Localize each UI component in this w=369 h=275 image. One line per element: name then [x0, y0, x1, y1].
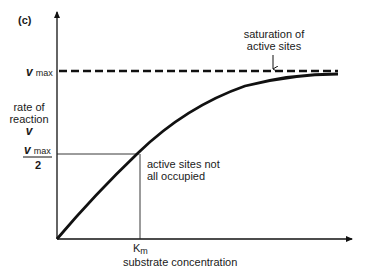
saturation-annotation: saturation of active sites [236, 28, 312, 52]
not-occupied-annotation: active sites not all occupied [147, 158, 220, 182]
y-axis-label-symbol: v [6, 125, 52, 137]
km-subscript: m [140, 246, 148, 256]
half-vmax-symbol: v [24, 143, 31, 157]
y-axis-label: rate of reaction v [6, 101, 52, 137]
km-label: Km [133, 242, 148, 255]
vmax-label: v max [26, 66, 53, 79]
vmax-subscript: max [36, 68, 53, 78]
half-vmax-numerator: v max [24, 144, 51, 157]
saturation-line2: active sites [236, 40, 312, 52]
vmax-symbol: v [26, 65, 33, 79]
half-vmax-denominator: 2 [23, 159, 53, 171]
diagram-canvas [0, 0, 369, 275]
y-axis-label-line1: rate of [6, 101, 52, 113]
not-occupied-line1: active sites not [147, 158, 220, 170]
michaelis-menten-curve [57, 74, 338, 239]
half-vmax-subscript: max [34, 146, 51, 156]
saturation-line1: saturation of [236, 28, 312, 40]
x-axis-label: substrate concentration [123, 256, 237, 268]
not-occupied-line2: all occupied [147, 170, 220, 182]
panel-label: (c) [18, 14, 31, 26]
